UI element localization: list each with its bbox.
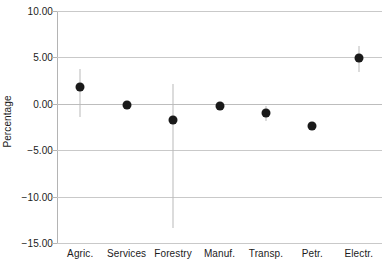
y-tick-label: 5.00	[11, 52, 53, 63]
gridline	[57, 197, 382, 198]
x-axis-tick-labels: Agric.ServicesForestryManuf.Transp.Petr.…	[57, 248, 382, 266]
data-point[interactable]	[122, 101, 131, 110]
y-tick-label: −5.00	[11, 145, 53, 156]
y-tick-mark	[52, 104, 57, 105]
x-tick-label: Petr.	[302, 248, 323, 259]
y-tick-mark	[52, 11, 57, 12]
y-tick-label: −10.00	[11, 191, 53, 202]
y-tick-label: 0.00	[11, 98, 53, 109]
gridline	[57, 150, 382, 151]
y-tick-mark	[52, 243, 57, 244]
x-tick-label: Transp.	[249, 248, 283, 259]
data-point[interactable]	[215, 102, 224, 111]
y-tick-mark	[52, 150, 57, 151]
x-tick-label: Manuf.	[204, 248, 235, 259]
gridline	[57, 11, 382, 12]
data-point[interactable]	[308, 122, 317, 131]
data-point[interactable]	[261, 109, 270, 118]
error-bar	[80, 69, 81, 117]
x-tick-label: Forestry	[154, 248, 191, 259]
y-axis-tick-labels: 10.005.000.00−5.00−10.00−15.00	[10, 0, 53, 271]
plot-area	[57, 11, 382, 243]
y-tick-label: 10.00	[11, 6, 53, 17]
chart-container: Percentage 10.005.000.00−5.00−10.00−15.0…	[0, 0, 385, 271]
x-tick-label: Electr.	[345, 248, 374, 259]
x-tick-label: Services	[107, 248, 146, 259]
gridline	[57, 243, 382, 244]
y-tick-mark	[52, 57, 57, 58]
x-tick-label: Agric.	[67, 248, 93, 259]
y-tick-label: −15.00	[11, 238, 53, 249]
data-point[interactable]	[169, 115, 178, 124]
error-bar	[173, 84, 174, 228]
y-tick-mark	[52, 197, 57, 198]
data-point[interactable]	[354, 54, 363, 63]
data-point[interactable]	[76, 83, 85, 92]
gridline	[57, 57, 382, 58]
